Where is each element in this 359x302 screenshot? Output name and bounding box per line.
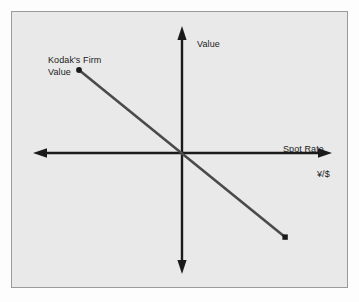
- chart-frame: Value Spot Rate ¥/$ Kodak's FirmValue: [11, 11, 348, 288]
- y-axis-arrow-down-icon: [177, 260, 186, 274]
- firm-value-annotation-line-2: Value: [48, 67, 71, 77]
- y-axis-arrow-up-icon: [177, 26, 186, 40]
- x-axis-label: Spot Rate: [283, 144, 324, 155]
- firm-value-annotation-label: Kodak's FirmValue: [48, 54, 101, 78]
- figure-root: Value Spot Rate ¥/$ Kodak's FirmValue: [0, 0, 359, 302]
- x-axis-units-label: ¥/$: [317, 169, 330, 180]
- y-axis-label: Value: [197, 39, 220, 50]
- firm-value-end-marker: [282, 234, 287, 239]
- x-axis-arrow-left-icon: [33, 148, 47, 158]
- firm-value-annotation-line-1: Kodak's Firm: [48, 55, 101, 65]
